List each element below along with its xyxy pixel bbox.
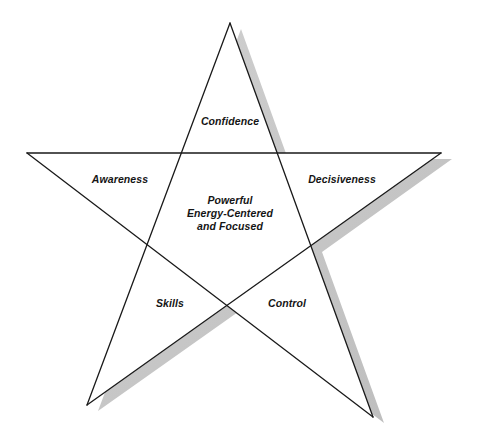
center-line-3: and Focused: [187, 220, 273, 233]
label-awareness: Awareness: [92, 173, 148, 186]
center-line-2: Energy-Centered: [187, 207, 273, 220]
label-control: Control: [268, 297, 306, 310]
label-confidence: Confidence: [201, 115, 259, 128]
label-decisiveness: Decisiveness: [308, 173, 376, 186]
label-skills: Skills: [156, 297, 184, 310]
center-line-1: Powerful: [187, 194, 273, 207]
label-center: Powerful Energy-Centered and Focused: [187, 194, 273, 233]
